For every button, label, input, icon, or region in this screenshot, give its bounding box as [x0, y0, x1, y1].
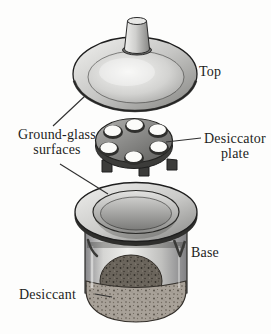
- leader-ground-glass-to-base: [60, 164, 108, 194]
- desiccator-diagram: [0, 0, 271, 334]
- label-base: Base: [191, 245, 219, 260]
- label-desiccator-plate: Desiccator plate: [201, 131, 269, 162]
- desiccator-figure: Top Ground-glass surfaces Desiccator pla…: [0, 0, 271, 334]
- hole: [104, 125, 121, 136]
- label-desiccant: Desiccant: [19, 287, 76, 302]
- lid-knob: [123, 18, 152, 56]
- desiccator-plate-illustration: [96, 119, 178, 177]
- hole: [125, 151, 142, 162]
- lid-dome-highlight: [99, 58, 155, 86]
- base-illustration: [75, 183, 198, 323]
- desiccant-bottom-mass: [86, 281, 186, 322]
- hole: [126, 119, 143, 130]
- hole: [150, 141, 167, 152]
- knob-top: [128, 18, 147, 25]
- base-bore: [101, 197, 172, 230]
- leader-ground-glass-to-lid: [53, 96, 85, 126]
- lid-illustration: [73, 18, 197, 112]
- plate-foot-right: [167, 159, 177, 170]
- label-top: Top: [199, 64, 221, 79]
- hole: [149, 124, 166, 135]
- knob-body: [125, 21, 150, 54]
- label-ground-glass-surfaces: Ground-glass surfaces: [8, 127, 106, 158]
